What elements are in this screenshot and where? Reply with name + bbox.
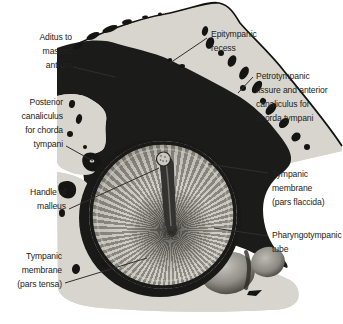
- label-pharyngotympanic-tube: Pharyngotympanic tube: [272, 228, 342, 256]
- label-tympanic-membrane-pars-tensa: Tympanic membrane (pars tensa): [17, 249, 62, 291]
- posterior-bone-mass: [57, 94, 106, 175]
- leader-epitympanic-recess: [170, 38, 207, 63]
- label-petrotympanic-fissure: Petrotympanic fissure and anterior canal…: [256, 69, 328, 125]
- leader-aditus: [73, 67, 115, 77]
- tympanic-membrane-pars-tensa: [89, 141, 237, 289]
- posterior-canaliculus-opening: [82, 153, 101, 172]
- label-tympanic-membrane-pars-flaccida: Tympanic membrane (pars flaccida): [272, 167, 324, 209]
- label-posterior-canaliculus: Posterior canaliculus for chorda tympani: [22, 95, 63, 151]
- leader-petrotympanic: [238, 77, 253, 93]
- label-handle-of-malleus: Handle of malleus: [30, 185, 66, 213]
- label-aditus-to-mastoid-antrum: Aditus to mastoid antrum: [39, 30, 72, 72]
- canaliculus-slit: [90, 159, 95, 162]
- anatomy-figure: Aditus to mastoid antrum Epitympanic rec…: [0, 0, 343, 324]
- label-epitympanic-recess: Epitympanic recess: [211, 27, 257, 55]
- leader-posterior-canaliculus: [66, 146, 93, 161]
